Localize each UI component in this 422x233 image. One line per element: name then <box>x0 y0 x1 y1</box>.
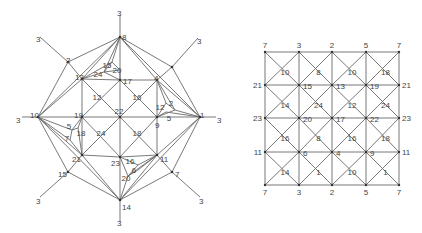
face-label: 24 <box>97 129 106 138</box>
cell-label: 12 <box>348 101 357 110</box>
vertex-label: 13 <box>75 73 84 82</box>
grid-vertex <box>298 84 300 86</box>
cell-label: 16 <box>281 134 290 143</box>
vertex-label: 3 <box>217 116 222 125</box>
face-label: 12 <box>93 93 102 102</box>
face-label: 20 <box>122 174 131 183</box>
top-edge-label: 5 <box>364 41 369 50</box>
right-edge-label: 21 <box>402 81 411 90</box>
diagram-canvas: 8313174101991212311143215733333315202412… <box>0 0 422 233</box>
cell-label: 10 <box>348 68 357 77</box>
vertex-21 <box>81 154 84 157</box>
vertex-label: 3 <box>36 35 41 44</box>
vertex-label: 23 <box>111 159 120 168</box>
grid-vertex <box>365 84 367 86</box>
vertex-label: 11 <box>160 155 169 164</box>
grid-vertex <box>298 51 300 53</box>
face-label: 5 <box>67 122 72 131</box>
grid-vertex <box>365 117 367 119</box>
cell-label: 16 <box>348 134 357 143</box>
grid-vertex <box>398 184 400 186</box>
left-edge-label: 23 <box>253 114 262 123</box>
vertex-label: 10 <box>30 111 39 120</box>
vertex-15 <box>67 171 70 174</box>
grid-vertex <box>365 151 367 153</box>
vertex-8 <box>119 36 122 39</box>
vertex-label: 17 <box>123 77 132 86</box>
top-edge-label: 7 <box>397 41 402 50</box>
cell-label: 14 <box>281 168 290 177</box>
grid-vertex <box>264 151 266 153</box>
vertex-9 <box>156 116 159 119</box>
grid-vertex <box>331 51 333 53</box>
cell-label: 18 <box>381 134 390 143</box>
interior-vertex-label: 17 <box>336 115 345 124</box>
bottom-edge-label: 3 <box>297 188 302 197</box>
vertex-label: 7 <box>175 170 180 179</box>
face-label: 5 <box>167 114 172 123</box>
left-edge-label: 21 <box>253 81 262 90</box>
grid-vertex <box>264 51 266 53</box>
vertex-label: 3 <box>117 219 122 228</box>
cell-label: 8 <box>316 68 321 77</box>
vertex-11 <box>156 154 159 157</box>
cell-label: 24 <box>314 101 323 110</box>
vertex-label: 3 <box>36 197 41 206</box>
interior-vertex-label: 20 <box>303 115 312 124</box>
grid-vertex <box>298 151 300 153</box>
vertex-14 <box>119 199 122 202</box>
vertex-label: 9 <box>155 121 160 130</box>
vertex-7 <box>171 171 174 174</box>
interior-vertex-label: 19 <box>370 82 379 91</box>
vertex-label: 21 <box>72 155 81 164</box>
interior-vertex-label: 15 <box>303 82 312 91</box>
face-label: 20 <box>113 66 122 75</box>
top-edge-label: 7 <box>263 41 268 50</box>
face-label: 22 <box>115 107 124 116</box>
vertex-label: 3 <box>199 197 204 206</box>
face-label: 24 <box>94 70 103 79</box>
vertex-vne <box>171 66 174 69</box>
bottom-edge-label: 7 <box>263 188 268 197</box>
grid-vertex <box>298 117 300 119</box>
face-label: 18 <box>133 129 142 138</box>
interior-vertex-label: 6 <box>303 149 308 158</box>
interior-vertex-label: 22 <box>370 115 379 124</box>
face-label: 15 <box>103 61 112 70</box>
vertex-label: 8 <box>122 33 127 42</box>
top-edge-label: 2 <box>330 41 335 50</box>
vertex-vc <box>119 116 122 119</box>
grid-vertex <box>365 51 367 53</box>
bottom-edge-label: 7 <box>397 188 402 197</box>
grid-vertex <box>398 84 400 86</box>
face-label: 16 <box>133 93 142 102</box>
cell-label: 1 <box>316 168 321 177</box>
grid-vertex <box>331 184 333 186</box>
grid-vertex <box>331 84 333 86</box>
right-edge-label: 11 <box>402 148 411 157</box>
vertex-label: 15 <box>58 170 67 179</box>
cell-label: 10 <box>348 168 357 177</box>
vertex-17 <box>119 79 122 82</box>
vertex-label: 3 <box>117 9 122 18</box>
grid-vertex <box>331 151 333 153</box>
cell-label: 1 <box>383 168 388 177</box>
face-label: 6 <box>132 166 137 175</box>
cell-label: 24 <box>381 101 390 110</box>
grid-vertex <box>398 51 400 53</box>
face-label: 16 <box>126 157 135 166</box>
bottom-edge-label: 2 <box>330 188 335 197</box>
grid-vertex <box>298 184 300 186</box>
face-label: 7 <box>65 134 70 143</box>
cell-label: 8 <box>316 134 321 143</box>
interior-vertex-label: 13 <box>336 82 345 91</box>
vertex-label: 2 <box>66 56 71 65</box>
bottom-edge-label: 5 <box>364 188 369 197</box>
grid-vertex <box>264 184 266 186</box>
cell-label: 14 <box>281 101 290 110</box>
grid-vertex <box>398 117 400 119</box>
grid-vertex <box>264 84 266 86</box>
vertex-label: 3 <box>197 37 202 46</box>
grid-vertex <box>331 117 333 119</box>
top-edge-label: 3 <box>297 41 302 50</box>
